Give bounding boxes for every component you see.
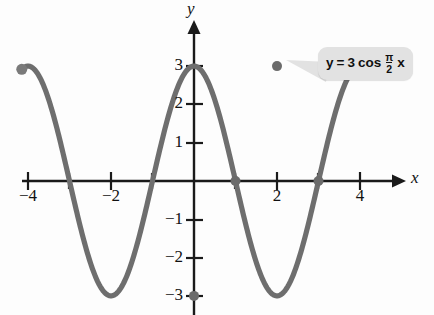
- y-tick-label--3: −3: [155, 285, 183, 305]
- x-axis-label: x: [411, 168, 419, 188]
- y-tick-label--2: −2: [155, 247, 183, 267]
- x-tick-label--4: −4: [14, 186, 42, 206]
- y-tick-label-2: 2: [163, 93, 183, 113]
- x-tick-label-2: 2: [266, 186, 288, 206]
- x-tick-label-4: 4: [349, 186, 371, 206]
- y-tick-label-3: 3: [163, 55, 183, 75]
- marked-point-maximum: [272, 61, 282, 71]
- equation-callout: y = 3 cos π 2 x: [318, 47, 413, 80]
- equation-fraction-denominator: 2: [386, 62, 392, 74]
- marked-point-x-intercept-1: [231, 176, 241, 186]
- equation-y-symbol: y: [326, 56, 334, 70]
- x-tick-label--2: −2: [97, 186, 125, 206]
- equation-function-name: cos: [358, 56, 381, 70]
- equation-equals-sign: =: [337, 56, 345, 70]
- y-axis-label: y: [187, 0, 195, 19]
- equation-amplitude: 3: [347, 56, 355, 70]
- graph-figure: y x −4 −2 2 4 3 2 1 −1 −2 −3 y = 3 cos π…: [0, 0, 434, 315]
- y-tick-label-1: 1: [163, 132, 183, 152]
- equation-variable: x: [397, 56, 405, 70]
- y-tick-label--1: −1: [155, 209, 183, 229]
- y-axis-arrow-icon: [188, 20, 201, 34]
- equation-fraction-numerator: π: [385, 52, 393, 62]
- x-axis-arrow-icon: [392, 175, 406, 188]
- marked-point-minimum: [189, 291, 199, 301]
- curve-endpoint-left: [16, 64, 27, 75]
- equation-fraction: π 2: [385, 52, 393, 74]
- equation-callout-text: y = 3 cos π 2 x: [326, 52, 405, 74]
- marked-point-x-intercept-3: [314, 176, 324, 186]
